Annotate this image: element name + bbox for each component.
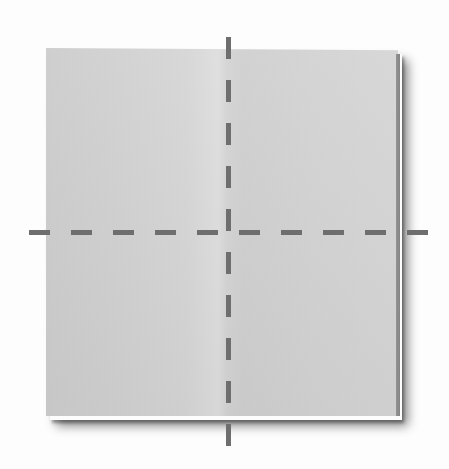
vertical-fold-line	[226, 37, 231, 455]
diagram-canvas	[0, 0, 449, 469]
paper-edge-shadow	[396, 54, 400, 416]
horizontal-fold-line	[29, 230, 429, 235]
